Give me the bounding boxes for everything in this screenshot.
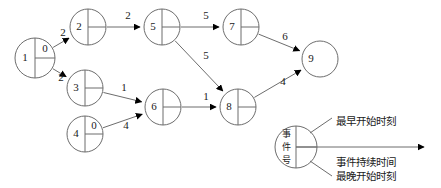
node-4[interactable]: 40 [67,116,103,152]
edge-n4-n6: 4 [103,114,142,130]
node-6[interactable]: 6 [145,89,181,125]
edge-n5-n7: 5 [181,9,219,27]
edge-n1-n2: 2 [53,26,69,48]
legend-duration-label: 事件持续时间 [336,156,396,168]
edge-weight-label: 1 [121,81,127,93]
node-id-label: 2 [76,20,82,32]
edge-line [259,34,300,51]
node-id-label: 7 [229,20,235,32]
node-id-label: 6 [151,100,157,112]
node-earliest-time: 0 [42,42,48,54]
legend-pointer-earliest [310,118,332,133]
node-id-label: 3 [73,81,79,93]
edge-n3-n6: 1 [103,81,141,102]
legend-node-char-2: 号 [282,155,291,165]
node-7[interactable]: 7 [223,9,259,45]
edge-weight-label: 1 [203,90,209,102]
node-id-label: 9 [308,52,314,64]
node-earliest-time: 0 [91,119,97,131]
edge-weight-label: 5 [203,9,209,21]
node-1[interactable]: 10 [15,38,55,78]
edge-n7-n9: 6 [259,30,300,51]
node-2[interactable]: 2 [70,9,106,45]
edge-weight-label: 4 [280,75,286,87]
edge-n6-n8: 1 [182,90,216,107]
node-3[interactable]: 3 [67,70,103,106]
edge-line [254,70,301,97]
edge-weight-label: 2 [60,26,66,38]
node-9[interactable]: 9 [302,41,338,77]
edge-weight-label: 2 [125,9,131,21]
node-id-label: 8 [226,100,232,112]
node-id-label: 5 [150,20,156,32]
edge-weight-label: 4 [123,119,129,131]
aoe-network-diagram: 2225514164 10234056789 事 件 号 最早开始时刻 事件持续… [0,0,441,188]
edge-weight-label: 2 [58,71,64,83]
legend-pointer-latest [310,161,332,176]
edge-n2-n5: 2 [107,9,140,27]
node-id-label: 1 [22,51,28,63]
legend: 事 件 号 最早开始时刻 事件持续时间 最晚开始时刻 [275,115,424,182]
edge-line [53,38,69,47]
edge-weight-label: 5 [203,49,209,61]
node-5[interactable]: 5 [144,9,180,45]
edge-n1-n3: 2 [53,69,66,83]
diagram-canvas: 2225514164 10234056789 事 件 号 最早开始时刻 事件持续… [0,0,441,188]
legend-earliest-start-label: 最早开始时刻 [336,115,396,127]
node-8[interactable]: 8 [220,89,256,125]
edge-weight-label: 6 [282,30,288,42]
node-id-label: 4 [73,127,79,139]
edge-n5-n8: 5 [175,41,223,91]
legend-node-char-0: 事 [282,128,291,139]
legend-latest-start-label: 最晚开始时刻 [336,170,396,182]
edge-line [175,41,223,91]
legend-node-char-1: 件 [282,141,291,152]
edge-n8-n9: 4 [254,70,301,97]
edge-line [103,92,141,101]
